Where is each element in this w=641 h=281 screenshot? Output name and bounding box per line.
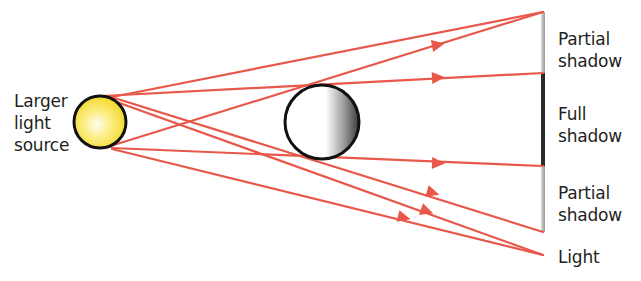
arrowhead-icon [432,157,445,170]
label-full-shadow: Full shadow [558,103,622,147]
label-line: Light [558,246,599,268]
label-larger-light-source: Larger light source [14,90,69,156]
arrowhead-icon [431,38,446,52]
label-line: Larger [14,90,69,112]
ray-arrowheads [397,38,446,225]
arrowhead-icon [419,203,435,219]
screen-full-shadow [541,73,545,166]
arrowhead-icon [432,71,446,84]
label-partial-shadow-bottom: Partial shadow [558,182,622,226]
label-light: Light [558,246,599,268]
screen-partial-top [541,12,545,73]
label-line: shadow [558,50,622,72]
label-partial-shadow-top: Partial shadow [558,28,622,72]
label-line: Partial [558,182,622,204]
label-line: shadow [558,125,622,147]
label-line: Partial [558,28,622,50]
label-line: source [14,134,69,156]
shadow-diagram [0,0,641,281]
label-line: Full [558,103,622,125]
label-line: light [14,112,69,134]
light-source-sun-icon [74,96,126,148]
screen-partial-bottom [541,166,545,232]
screen [541,12,545,232]
label-line: shadow [558,204,622,226]
opaque-ball-icon [285,85,359,159]
